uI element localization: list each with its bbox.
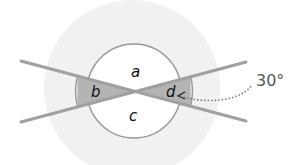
angle-label-b: b xyxy=(91,83,101,101)
angle-annotation: 30° xyxy=(256,71,284,90)
angle-label-a: a xyxy=(131,63,140,81)
angle-label-c: c xyxy=(129,107,138,125)
angle-label-d: d xyxy=(166,83,176,101)
angle-diagram: a b c d 30° xyxy=(0,0,303,165)
